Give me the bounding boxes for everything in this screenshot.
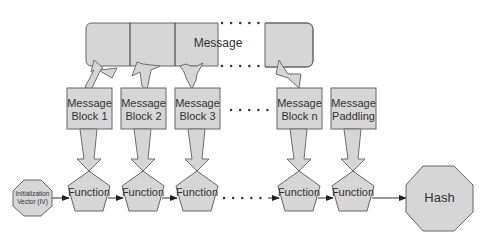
initialization-vector: Initialization Vector (IV) xyxy=(13,180,52,216)
function-2: Function xyxy=(122,171,164,211)
arrow-down-icon xyxy=(77,129,101,171)
svg-text:Block 1: Block 1 xyxy=(71,110,107,122)
hash-construction-diagram: Message Message Block 1 Message Block 2 … xyxy=(0,0,487,241)
svg-text:Block 2: Block 2 xyxy=(125,110,161,122)
arrow-down-icon xyxy=(131,129,155,171)
function-1: Function xyxy=(68,171,110,211)
message-padding-block: Message Paddling xyxy=(331,88,376,129)
function-padding: Function xyxy=(332,171,374,211)
svg-text:Function: Function xyxy=(68,186,110,198)
arrow-down-icon xyxy=(341,129,365,171)
message-block-n: Message Block n xyxy=(277,88,322,129)
svg-text:Block n: Block n xyxy=(281,110,317,122)
function-n: Function xyxy=(278,171,320,211)
arrow-down-icon xyxy=(132,62,160,90)
svg-text:Function: Function xyxy=(332,186,374,198)
svg-text:Function: Function xyxy=(122,186,164,198)
message-block-3: Message Block 3 xyxy=(175,88,220,129)
arrow-down-icon xyxy=(180,63,203,89)
svg-text:Message: Message xyxy=(67,97,112,109)
message-block-1: Message Block 1 xyxy=(67,88,112,129)
svg-text:Initialization: Initialization xyxy=(16,190,50,197)
svg-text:Hash: Hash xyxy=(424,190,454,205)
function-3: Function xyxy=(176,171,218,211)
svg-text:Message: Message xyxy=(121,97,166,109)
hash-output: Hash xyxy=(406,166,473,231)
svg-text:Function: Function xyxy=(278,186,320,198)
message-block-2: Message Block 2 xyxy=(121,88,166,129)
arrow-down-icon xyxy=(185,129,209,171)
block-to-function-arrows xyxy=(77,129,365,171)
svg-text:Paddling: Paddling xyxy=(332,110,375,122)
svg-text:Vector (IV): Vector (IV) xyxy=(17,198,48,206)
svg-text:Message: Message xyxy=(175,97,220,109)
svg-text:Block 3: Block 3 xyxy=(179,110,215,122)
arrow-down-icon xyxy=(287,129,311,171)
message-label: Message xyxy=(194,36,243,50)
svg-text:Message: Message xyxy=(277,97,322,109)
svg-text:Message: Message xyxy=(331,97,376,109)
svg-text:Function: Function xyxy=(176,186,218,198)
